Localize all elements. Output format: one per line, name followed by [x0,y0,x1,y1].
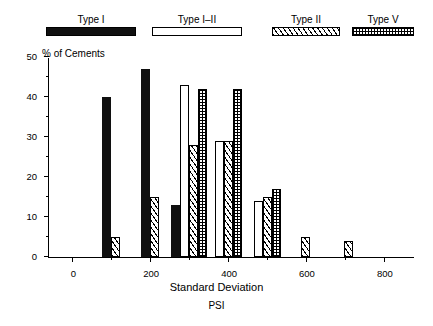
legend-label: Type V [352,14,414,26]
legend-item-1: Type I–II [152,14,242,36]
chart-legend: Type IType I–IIType IIType V [0,0,433,48]
x-axis-units: PSI [0,299,433,312]
bar-hatch-710 [344,241,353,257]
legend-swatch-check-icon [352,27,414,36]
y-tick: 40 [44,96,49,97]
x-tick-minor [267,257,268,260]
bar-hatch-600 [301,237,310,257]
legend-item-2: Type II [272,14,340,36]
legend-label: Type I–II [152,14,242,26]
x-tick-label: 200 [143,269,159,279]
x-tick: 0 [72,257,73,262]
x-tick-minor [345,257,346,260]
x-tick-label: 800 [377,269,393,279]
y-tick-label: 20 [26,172,37,182]
y-tick: 20 [44,176,49,177]
y-tick-minor [46,236,49,237]
bar-open-300 [180,85,189,257]
bar-solid-300 [171,205,180,257]
x-tick: 200 [150,257,151,262]
x-tick-label: 0 [71,269,76,279]
bar-solid-100 [102,97,111,257]
x-tick: 800 [384,257,385,262]
legend-label: Type II [272,14,340,26]
plot-area: 010203040500200400600800 [48,58,414,258]
legend-label: Type I [46,14,136,26]
y-tick: 10 [44,216,49,217]
bar-solid-200 [141,69,150,257]
bar-hatch-400 [224,141,233,257]
y-tick: 30 [44,136,49,137]
bar-hatch-300 [189,145,198,257]
y-tick-label: 50 [26,52,37,62]
y-tick-minor [46,196,49,197]
bar-hatch-200 [150,197,159,257]
y-tick-label: 10 [26,212,37,222]
bar-check-500 [272,189,281,257]
y-tick-minor [46,76,49,77]
y-tick: 0 [44,256,49,257]
bar-hatch-100 [111,237,120,257]
y-tick-minor [46,156,49,157]
y-tick-label: 0 [32,252,37,262]
bar-open-500 [254,201,263,257]
legend-swatch-open-icon [152,27,242,36]
y-tick-minor [46,116,49,117]
x-tick: 400 [228,257,229,262]
legend-swatch-solid-icon [46,27,136,36]
legend-item-0: Type I [46,14,136,36]
y-tick-label: 30 [26,132,37,142]
x-tick-minor [111,257,112,260]
legend-item-3: Type V [352,14,414,36]
x-tick-label: 600 [299,269,315,279]
x-tick-minor [189,257,190,260]
bar-check-400 [233,89,242,257]
x-tick: 600 [306,257,307,262]
legend-swatch-hatch-icon [272,27,340,36]
x-axis-title: Standard Deviation [0,281,433,294]
chart-screenshot: Type IType I–IIType IIType V % of Cement… [0,0,433,326]
y-tick: 50 [44,56,49,57]
bar-hatch-500 [263,197,272,257]
y-tick-label: 40 [26,92,37,102]
x-tick-label: 400 [221,269,237,279]
bar-check-300 [198,89,207,257]
bar-open-400 [215,141,224,257]
